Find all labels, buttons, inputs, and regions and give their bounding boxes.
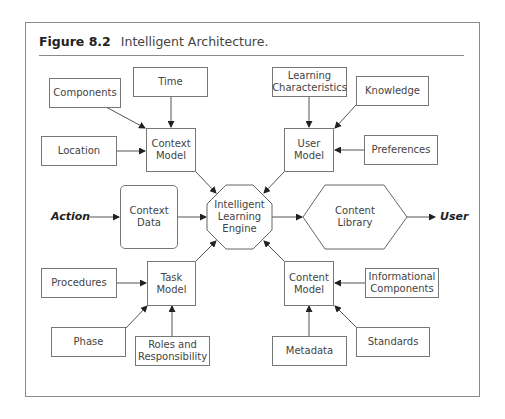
node-context-data-label: Context Data	[129, 205, 168, 229]
node-location: Location	[41, 136, 117, 166]
node-task-model-label: Task Model	[156, 272, 186, 296]
node-roles: Roles and Responsibility	[135, 336, 210, 366]
node-engine: Intelligent Learning Engine	[207, 185, 272, 249]
node-content-library-label: Content Library	[335, 205, 375, 229]
node-standards: Standards	[356, 327, 430, 357]
node-procedures-label: Procedures	[51, 277, 106, 289]
node-preferences: Preferences	[364, 135, 438, 165]
node-informational-components: Informational Components	[365, 268, 439, 298]
node-user-model-label: User Model	[294, 138, 324, 162]
node-content-model: Content Model	[284, 261, 334, 306]
node-content-model-label: Content Model	[289, 272, 329, 296]
node-context-data: Context Data	[120, 185, 178, 249]
node-knowledge: Knowledge	[356, 76, 429, 106]
node-roles-label: Roles and Responsibility	[138, 339, 207, 363]
node-metadata-label: Metadata	[286, 345, 333, 357]
edge-knowledge-user-model	[335, 105, 356, 128]
node-components-label: Components	[53, 87, 116, 99]
node-preferences-label: Preferences	[372, 144, 431, 156]
node-components: Components	[49, 78, 121, 108]
node-user-model: User Model	[284, 128, 334, 172]
node-metadata: Metadata	[272, 336, 347, 366]
node-learning-characteristics-label: Learning Characteristics	[272, 70, 347, 94]
node-task-model: Task Model	[147, 261, 196, 306]
node-context-model: Context Model	[146, 128, 196, 172]
edge-phase-task-model	[126, 306, 147, 328]
external-output-user: User	[440, 210, 468, 223]
node-procedures: Procedures	[41, 268, 117, 298]
node-knowledge-label: Knowledge	[365, 85, 420, 97]
node-context-model-label: Context Model	[151, 138, 190, 162]
node-phase: Phase	[51, 327, 126, 357]
node-phase-label: Phase	[74, 336, 104, 348]
external-input-action: Action	[51, 210, 90, 223]
node-informational-components-label: Informational Components	[369, 271, 436, 295]
edge-standards-content-model	[335, 306, 356, 327]
node-engine-label: Intelligent Learning Engine	[214, 199, 264, 235]
node-content-library: Content Library	[303, 185, 407, 249]
node-standards-label: Standards	[368, 336, 419, 348]
node-learning-characteristics: Learning Characteristics	[272, 67, 347, 97]
edge-components-context-model	[106, 107, 145, 128]
node-location-label: Location	[58, 145, 100, 157]
node-time-label: Time	[158, 76, 182, 88]
node-time: Time	[133, 67, 208, 97]
